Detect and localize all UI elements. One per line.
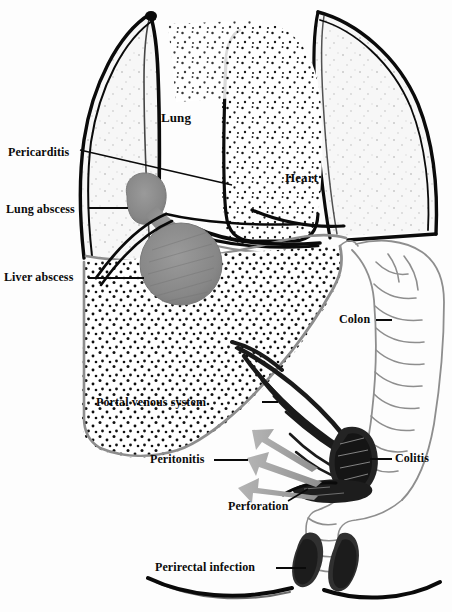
leader-liver-abscess xyxy=(88,277,144,279)
diagram-artwork xyxy=(0,0,452,612)
leader-lung-abscess xyxy=(88,207,128,209)
label-colitis: Colitis xyxy=(395,452,429,464)
mediastinum-stipple xyxy=(168,20,268,102)
label-portal-venous-system: Portal venous system xyxy=(96,396,206,408)
label-perforation: Perforation xyxy=(228,500,288,512)
leader-colitis xyxy=(370,458,392,460)
label-colon: Colon xyxy=(339,313,370,325)
perforation-lesion xyxy=(283,479,372,503)
label-liver-abscess: Liver abscess xyxy=(4,271,73,283)
label-perirectal-infection: Perirectal infection xyxy=(155,561,255,573)
label-lung-abscess: Lung abscess xyxy=(6,203,75,215)
leader-colon xyxy=(376,319,392,321)
label-peritonitis: Peritonitis xyxy=(150,453,204,465)
right-lung-structure xyxy=(314,12,437,240)
label-lung: Lung xyxy=(161,111,191,124)
leader-perirectal-infection xyxy=(276,567,306,569)
label-heart: Heart xyxy=(285,171,318,184)
label-pericarditis: Pericarditis xyxy=(8,146,69,158)
leader-peritonitis xyxy=(214,459,248,461)
leader-portal-venous-system xyxy=(262,401,278,403)
anatomical-diagram: Pericarditis Lung abscess Liver abscess … xyxy=(0,0,452,612)
